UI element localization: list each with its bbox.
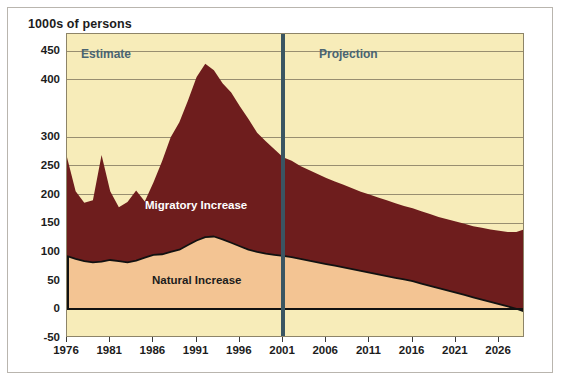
x-tick-mark [498,337,499,342]
x-tick-label: 2016 [399,344,425,356]
x-tick-label: 1986 [140,344,166,356]
x-tick-mark [196,337,197,342]
x-tick-label: 2021 [442,344,468,356]
x-tick-mark [239,337,240,342]
x-tick-label: 1976 [53,344,79,356]
x-tick-mark [109,337,110,342]
x-tick-mark [412,337,413,342]
x-tick-label: 1981 [96,344,122,356]
x-tick-label: 2006 [312,344,338,356]
chart-figure: 1000s of persons Estimate Projection Mig… [0,0,562,383]
x-tick-mark [455,337,456,342]
x-tick-mark [325,337,326,342]
x-tick-label: 2011 [356,344,381,356]
x-tick-label: 2001 [269,344,295,356]
x-tick-mark [368,337,369,342]
x-tick-label: 2026 [485,344,511,356]
x-tick-mark [152,337,153,342]
x-axis: 1976198119861991199620012006201120162021… [0,0,562,383]
x-tick-label: 1996 [226,344,252,356]
x-tick-label: 1991 [183,344,209,356]
x-tick-mark [282,337,283,342]
x-tick-mark [66,337,67,342]
